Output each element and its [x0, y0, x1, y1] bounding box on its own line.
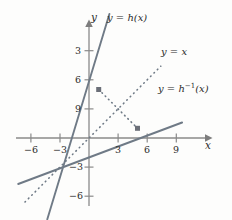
x-tick-label-9: 9 [173, 145, 179, 155]
marker-point-1-5 [96, 87, 101, 92]
x-tick-label-3: 3 [115, 145, 121, 155]
y-tick-label-9: 9 [75, 104, 81, 114]
h-inverse-exponent: −1 [185, 82, 195, 90]
x-axis-name: x [205, 140, 211, 151]
x-tick-label--6: −6 [24, 145, 38, 155]
reflection-connectors [99, 90, 138, 129]
y-tick-label-6: 6 [75, 75, 81, 85]
h-inverse-prefix: y = h [158, 83, 185, 94]
connector-upper [99, 90, 118, 109]
y-tick-label--3: −3 [69, 162, 83, 172]
h-inverse-curve [18, 123, 182, 185]
h-inverse-suffix: (x) [195, 83, 208, 94]
connector-lower [118, 109, 137, 128]
identity-line [25, 66, 161, 202]
y-axis-name: y [91, 12, 97, 23]
x-tick-label--3: −3 [53, 145, 67, 155]
marker-point-5-1 [135, 126, 140, 131]
graph-figure: y = h(x) y = x y = h−1(x) x y −6 −3 3 6 … [0, 0, 232, 220]
h-curve-label: y = h(x) [107, 13, 147, 23]
y-tick-label-3: 3 [75, 46, 81, 56]
plot-canvas [0, 0, 232, 220]
x-tick-label-6: 6 [144, 145, 150, 155]
identity-line-label: y = x [161, 47, 187, 57]
y-tick-label--6: −6 [69, 191, 83, 201]
h-inverse-curve-label: y = h−1(x) [158, 83, 209, 94]
